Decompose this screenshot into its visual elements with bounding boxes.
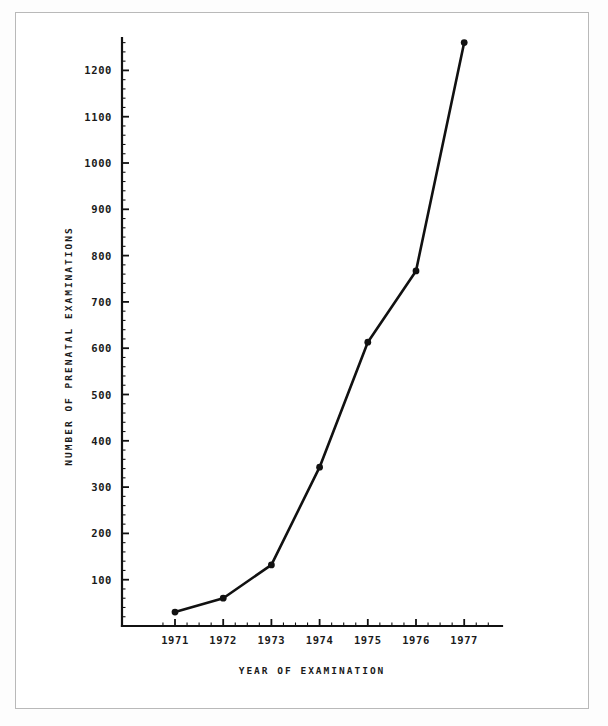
y-tick-label: 400: [91, 435, 112, 447]
x-tick-label: 1971: [161, 634, 189, 646]
y-tick-label: 600: [91, 342, 112, 354]
figure-page: 100200300400500600700800900100011001200 …: [0, 0, 608, 726]
data-point: [413, 268, 420, 275]
data-series-line: [175, 43, 464, 613]
y-tick-label: 900: [91, 203, 112, 215]
y-tick-label: 1000: [84, 157, 112, 169]
x-tick-label: 1974: [306, 634, 334, 646]
y-axis-tick-labels: 100200300400500600700800900100011001200: [84, 64, 112, 585]
x-tick-label: 1973: [258, 634, 286, 646]
data-point: [461, 39, 468, 46]
y-tick-label: 300: [91, 481, 112, 493]
y-tick-label: 500: [91, 389, 112, 401]
x-axis-tick-labels: 1971197219731974197519761977: [161, 634, 478, 646]
y-tick-label: 1200: [84, 64, 112, 76]
y-tick-label: 200: [91, 527, 112, 539]
y-tick-label: 700: [91, 296, 112, 308]
data-series-points: [172, 39, 468, 615]
data-point: [220, 595, 227, 602]
data-point: [268, 562, 275, 569]
y-tick-label: 1100: [84, 111, 112, 123]
x-tick-label: 1972: [209, 634, 237, 646]
x-tick-label: 1976: [402, 634, 430, 646]
line-chart: 100200300400500600700800900100011001200 …: [0, 0, 608, 726]
x-tick-label: 1975: [354, 634, 382, 646]
x-axis-title: YEAR OF EXAMINATION: [239, 665, 386, 676]
y-tick-label: 100: [91, 574, 112, 586]
chart-plot-area: 100200300400500600700800900100011001200 …: [0, 0, 608, 726]
x-tick-label: 1977: [450, 634, 478, 646]
data-point: [172, 609, 179, 616]
y-axis-title: NUMBER OF PRENATAL EXAMINATIONS: [63, 226, 74, 465]
data-point: [364, 339, 371, 346]
data-point: [316, 464, 323, 471]
y-tick-label: 800: [91, 250, 112, 262]
